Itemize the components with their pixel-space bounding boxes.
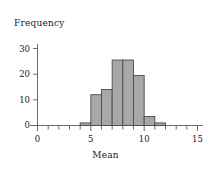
histogram-bar (155, 123, 166, 126)
y-tick-label-30: 30 (14, 44, 30, 54)
histogram-bar (80, 123, 91, 126)
x-tick-label-15: 15 (190, 134, 206, 144)
x-axis-ticks (38, 126, 198, 132)
x-axis-title: Mean (0, 150, 211, 160)
x-tick-label-5: 5 (83, 134, 99, 144)
plot-area: Frequency Mean 0 10 20 30 0 5 10 15 (0, 0, 211, 169)
x-tick-label-0: 0 (30, 134, 46, 144)
histogram-bar (134, 75, 145, 125)
histogram-bar (123, 60, 134, 125)
histogram-bar (91, 95, 102, 126)
y-axis-ticks (33, 49, 38, 126)
histogram-bars (80, 60, 165, 125)
histogram-bar (144, 117, 155, 126)
x-tick-label-10: 10 (136, 134, 152, 144)
y-tick-label-20: 20 (14, 69, 30, 79)
y-axis-title: Frequency (14, 18, 64, 28)
histogram-bar (102, 90, 113, 126)
y-tick-label-10: 10 (14, 95, 30, 105)
histogram-bar (112, 60, 123, 125)
histogram-figure: Frequency Mean 0 10 20 30 0 5 10 15 (0, 0, 211, 169)
y-tick-label-0: 0 (14, 120, 30, 130)
